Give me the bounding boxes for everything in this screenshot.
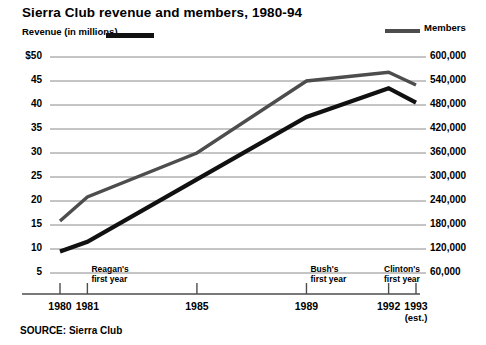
annotation-line-2: first year xyxy=(91,275,128,285)
gridlines xyxy=(60,57,416,273)
series-line-members xyxy=(60,72,416,221)
chart-annotation: Reagan'sfirst year xyxy=(91,265,128,284)
right-axis-tick-label: 180,000 xyxy=(430,218,486,229)
left-axis-tick-label: 30 xyxy=(2,146,42,157)
right-axis-tick-label: 480,000 xyxy=(430,98,486,109)
left-axis-tick-label: 35 xyxy=(2,122,42,133)
chart-annotation: Clinton'sfirst year xyxy=(384,265,420,284)
x-axis-tick-sublabel: (est.) xyxy=(386,312,446,323)
left-axis-tick-label: 5 xyxy=(2,266,42,277)
right-axis-tick-label: 540,000 xyxy=(430,74,486,85)
left-axis-tick-marks xyxy=(50,57,60,273)
x-axis-tick-label: 1993(est.) xyxy=(386,300,446,323)
left-axis-tick-label: 15 xyxy=(2,218,42,229)
right-axis-tick-label: 600,000 xyxy=(430,50,486,61)
right-axis-tick-marks xyxy=(416,57,426,273)
chart-figure: Sierra Club revenue and members, 1980-94… xyxy=(0,0,486,345)
left-axis-tick-label: 10 xyxy=(2,242,42,253)
x-axis xyxy=(22,283,420,294)
right-axis-tick-label: 300,000 xyxy=(430,170,486,181)
x-axis-tick-label: 1989 xyxy=(276,300,336,312)
series-line-revenue xyxy=(60,88,416,251)
right-axis-tick-label: 360,000 xyxy=(430,146,486,157)
left-axis-tick-label: 25 xyxy=(2,170,42,181)
source-note: SOURCE: Sierra Club xyxy=(20,325,122,336)
right-axis-tick-label: 420,000 xyxy=(430,122,486,133)
right-axis-tick-label: 240,000 xyxy=(430,194,486,205)
annotation-line-2: first year xyxy=(384,275,420,285)
left-axis-tick-label: 20 xyxy=(2,194,42,205)
x-axis-tick-label: 1985 xyxy=(167,300,227,312)
chart-annotation: Bush'sfirst year xyxy=(310,265,346,284)
right-axis-tick-label: 120,000 xyxy=(430,242,486,253)
x-axis-tick-label: 1981 xyxy=(57,300,117,312)
plot-area xyxy=(0,0,486,345)
left-axis-tick-label: 40 xyxy=(2,98,42,109)
left-axis-tick-label: $50 xyxy=(2,50,42,61)
left-axis-tick-label: 45 xyxy=(2,74,42,85)
annotation-line-2: first year xyxy=(310,275,346,285)
right-axis-tick-label: 60,000 xyxy=(430,266,486,277)
